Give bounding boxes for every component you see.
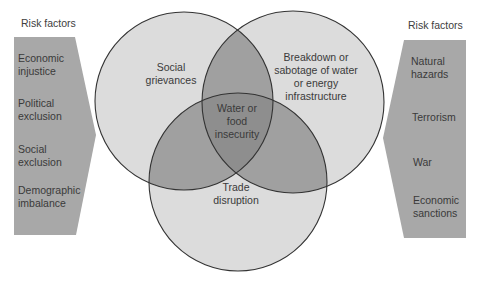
right-item-natural-hazards: Naturalhazards [411, 55, 448, 81]
right-panel-title: Risk factors [408, 19, 463, 31]
right-item-economic-sanctions: Economicsanctions [413, 194, 459, 220]
left-item-demographic-imbalance: Demographicimbalance [18, 184, 80, 210]
left-item-political-exclusion: Politicalexclusion [18, 97, 62, 123]
venn-label-trade-disruption: Tradedisruption [213, 181, 259, 207]
right-item-terrorism: Terrorism [412, 111, 456, 124]
venn-label-water-food-insecurity: Water orfoodinsecurity [215, 102, 259, 141]
venn-label-social-grievances: Socialgrievances [146, 61, 197, 87]
left-item-social-exclusion: Socialexclusion [18, 143, 62, 169]
right-item-war: War [413, 156, 432, 169]
left-item-economic-injustice: Economicinjustice [18, 52, 64, 78]
venn-label-infrastructure: Breakdown orsabotage of wateror energyin… [274, 51, 357, 103]
left-panel-title: Risk factors [21, 17, 76, 29]
